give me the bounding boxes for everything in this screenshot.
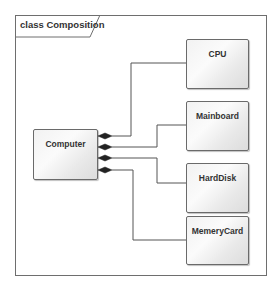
composition-diamond-icon — [98, 167, 112, 173]
class-memerycard[interactable]: MemeryCard — [186, 216, 249, 265]
class-cpu[interactable]: CPU — [186, 39, 249, 89]
class-name: CPU — [187, 49, 248, 59]
composition-diamond-icon — [98, 155, 112, 161]
class-name: Computer — [34, 139, 97, 149]
class-name: Mainboard — [187, 111, 248, 121]
class-harddisk[interactable]: HardDisk — [186, 163, 249, 213]
class-computer[interactable]: Computer — [33, 129, 98, 180]
composition-diamond-icon — [98, 144, 112, 150]
class-mainboard[interactable]: Mainboard — [186, 101, 249, 151]
link-memerycard — [112, 170, 186, 240]
composition-diamond-icon — [98, 133, 112, 139]
class-name: HardDisk — [187, 173, 248, 183]
class-name: MemeryCard — [187, 226, 248, 236]
